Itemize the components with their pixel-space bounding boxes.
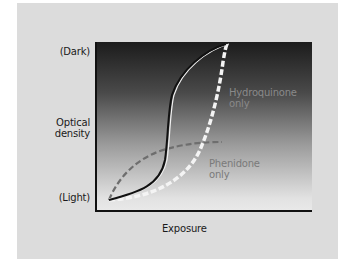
y-tick-light: (Light): [50, 192, 90, 203]
y-axis-title-line1: Optical: [44, 117, 90, 128]
hydroquinone-label: Hydroquinone only: [229, 87, 297, 109]
phenidone-label-line2: only: [209, 169, 260, 180]
hydroquinone-label-line1: Hydroquinone: [229, 87, 297, 98]
y-tick-dark: (Dark): [52, 46, 90, 57]
x-axis: [95, 210, 312, 212]
phenidone-label-line1: Phenidone: [209, 158, 260, 169]
y-axis-title: Optical density: [44, 117, 90, 139]
x-axis-title: Exposure: [162, 223, 242, 234]
y-axis-title-line2: density: [44, 128, 90, 139]
y-axis: [95, 42, 97, 212]
hydroquinone-label-line2: only: [229, 98, 297, 109]
phenidone-label: Phenidone only: [209, 158, 260, 180]
